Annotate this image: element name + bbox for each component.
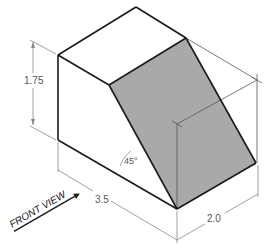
length-label: 3.5 [95, 194, 109, 205]
isometric-drawing: 1.75 3.5 2.0 45° FRONT VIEW [0, 0, 266, 252]
arrow-right-icon [73, 191, 81, 199]
angle-label: 45° [124, 156, 138, 166]
front-view-indicator: FRONT VIEW [8, 182, 82, 234]
drawing-canvas: 1.75 3.5 2.0 45° FRONT VIEW [0, 0, 266, 252]
front-view-label: FRONT VIEW [8, 188, 69, 230]
height-label: 1.75 [24, 75, 44, 86]
depth-label: 2.0 [207, 213, 221, 224]
